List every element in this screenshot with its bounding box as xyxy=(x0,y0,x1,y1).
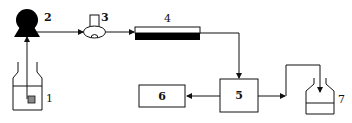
pump-icon xyxy=(14,9,40,37)
label-1: 1 xyxy=(46,92,53,105)
sample-square-icon xyxy=(28,96,35,103)
column-icon xyxy=(135,27,200,40)
label-7: 7 xyxy=(338,93,345,106)
label-6: 6 xyxy=(158,90,166,103)
label-3: 3 xyxy=(101,11,109,24)
connector-4-5 xyxy=(200,33,239,78)
label-5: 5 xyxy=(235,89,243,102)
label-2: 2 xyxy=(44,11,52,24)
label-4: 4 xyxy=(164,12,171,25)
connector-5-7b xyxy=(286,65,320,96)
flow-diagram: 1 2 3 4 5 6 7 xyxy=(0,0,352,123)
